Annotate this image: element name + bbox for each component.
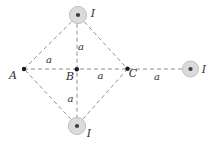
- wire-symbol-top: [69, 6, 86, 23]
- label-distance-b-to-c: a: [98, 70, 104, 81]
- label-current-top: I: [90, 7, 96, 20]
- label-current-right: I: [201, 63, 207, 76]
- point-a-dot: [22, 67, 26, 71]
- label-distance-b-to-top: a: [78, 41, 84, 52]
- label-point-b: B: [65, 70, 74, 83]
- point-b-dot: [75, 67, 79, 71]
- dashed-line-top-wire-to-c: [84, 22, 127, 69]
- dashed-line-bottom-wire-to-a: [24, 69, 71, 119]
- wire-center-dot: [188, 67, 192, 71]
- wire-center-dot: [75, 124, 79, 128]
- wire-symbol-right: [183, 61, 199, 77]
- wire-center-dot: [76, 13, 80, 17]
- physics-diagram: A B C I I I a a a a a: [0, 0, 215, 142]
- label-point-c: C: [129, 67, 138, 80]
- label-current-bottom: I: [86, 127, 92, 140]
- label-distance-b-to-bottom: a: [68, 93, 74, 104]
- wire-symbol-bottom: [68, 117, 85, 134]
- label-point-a: A: [8, 69, 17, 82]
- dashed-line-c-to-bottom-wire: [83, 69, 128, 119]
- label-distance-a-to-b: a: [46, 54, 52, 65]
- label-distance-c-to-right: a: [154, 71, 160, 82]
- diagram-canvas: A B C I I I a a a a a: [0, 0, 215, 142]
